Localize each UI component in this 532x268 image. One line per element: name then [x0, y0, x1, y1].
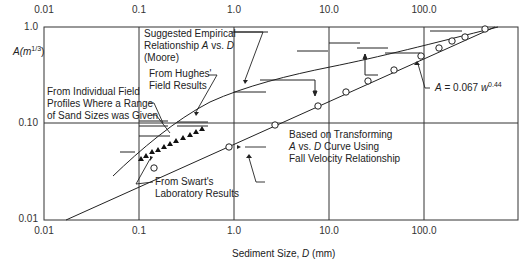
- left-tick-1: 0.10: [8, 117, 38, 128]
- annotation-equation: A = 0.067 w0.44: [435, 82, 502, 94]
- bottom-tick-2: 1.0: [227, 225, 241, 236]
- left-tick-2: 0.01: [8, 213, 38, 224]
- top-tick-1: 0.1: [132, 4, 146, 15]
- annotation-moore: Suggested Empirical Relationship A vs. D…: [144, 28, 236, 64]
- top-tick-3: 10.0: [319, 4, 338, 15]
- top-tick-2: 1.0: [227, 4, 241, 15]
- top-tick-0: 0.01: [34, 4, 53, 15]
- y-axis-label: A(m1/3): [13, 46, 44, 58]
- x-axis-label: Sediment Size, D (mm): [232, 248, 335, 260]
- bottom-tick-0: 0.01: [34, 225, 53, 236]
- bottom-tick-4: 100.0: [411, 225, 436, 236]
- chart-canvas: [0, 0, 532, 268]
- top-tick-4: 100.0: [411, 4, 436, 15]
- bottom-tick-3: 10.0: [319, 225, 338, 236]
- annotation-hughes: From Hughes' Field Results: [149, 68, 212, 92]
- annotation-individual-profiles: From Individual Field Profiles Where a R…: [47, 86, 158, 122]
- step-arrows: [292, 54, 378, 96]
- bottom-tick-1: 0.1: [132, 225, 146, 236]
- annotation-swart: From Swart's Laboratory Results: [155, 176, 239, 200]
- left-tick-0: 1.0: [8, 21, 38, 32]
- hughes-triangles: [138, 126, 205, 161]
- annotation-fall-velocity: Based on Transforming A vs. D Curve Usin…: [289, 129, 400, 165]
